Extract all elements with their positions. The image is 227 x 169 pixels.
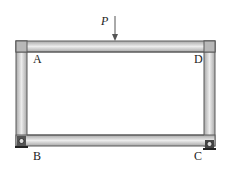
node-label-c: C	[194, 149, 202, 163]
load-arrow-icon	[112, 16, 118, 41]
left-column	[16, 41, 27, 146]
frame-diagram: P A D B C	[0, 0, 227, 169]
node-label-a: A	[33, 52, 42, 66]
right-column	[204, 41, 215, 146]
node-label-b: B	[33, 149, 41, 163]
node-label-d: D	[194, 52, 203, 66]
top-beam	[16, 41, 215, 52]
load-label: P	[100, 14, 109, 28]
bottom-beam	[16, 135, 215, 146]
